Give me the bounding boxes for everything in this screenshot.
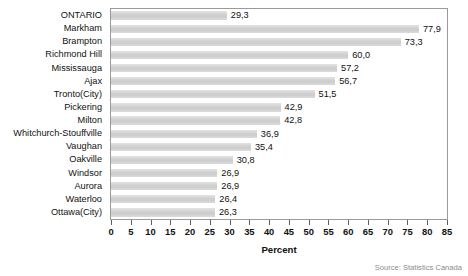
bar-value-label: 29,3 xyxy=(231,11,249,19)
bar-row: 57,2 xyxy=(111,64,447,72)
bar-value-label: 42,8 xyxy=(284,116,302,124)
bar xyxy=(111,143,251,151)
bar-chart: ONTARIOMarkhamBramptonRichmond HillMissi… xyxy=(0,0,468,276)
clipped-caption-sliver xyxy=(130,270,360,276)
bar-value-label: 73,3 xyxy=(405,38,423,46)
bar-row: 26,9 xyxy=(111,169,447,177)
x-axis-tick-mark xyxy=(309,220,310,225)
source-annotation: Source: Statistics Canada xyxy=(375,263,462,272)
bar-row: 26,3 xyxy=(111,208,447,216)
category-label: Brampton xyxy=(62,35,102,47)
bar-value-label: 26,3 xyxy=(219,208,237,216)
x-axis-tick-mark xyxy=(249,220,250,225)
bar xyxy=(111,64,337,72)
bar-value-label: 26,4 xyxy=(219,195,237,203)
category-label: Milton xyxy=(77,114,102,126)
x-axis-tick-mark xyxy=(368,220,369,225)
x-axis-tick-mark xyxy=(131,220,132,225)
bar-value-label: 51,5 xyxy=(319,90,337,98)
bar xyxy=(111,103,281,111)
bar-value-label: 35,4 xyxy=(255,143,273,151)
bar-value-label: 36,9 xyxy=(261,130,279,138)
x-axis-tick-mark xyxy=(407,220,408,225)
x-axis-tick-mark xyxy=(170,220,171,225)
bar-row: 26,4 xyxy=(111,195,447,203)
bar xyxy=(111,116,280,124)
bar-row: 60,0 xyxy=(111,51,447,59)
bar-row: 26,9 xyxy=(111,182,447,190)
bar-row: 42,8 xyxy=(111,116,447,124)
bar-row: 35,4 xyxy=(111,143,447,151)
bar xyxy=(111,11,227,19)
bar xyxy=(111,169,217,177)
category-label: Markham xyxy=(64,22,102,34)
category-label: Windsor xyxy=(68,167,102,179)
bar-row: 51,5 xyxy=(111,90,447,98)
bar-row: 56,7 xyxy=(111,77,447,85)
bar-value-label: 30,8 xyxy=(237,156,255,164)
bar-value-label: 26,9 xyxy=(221,182,239,190)
bar xyxy=(111,195,215,203)
bar-row: 29,3 xyxy=(111,11,447,19)
bar-row: 42,9 xyxy=(111,103,447,111)
category-label: ONTARIO xyxy=(61,9,102,21)
bar xyxy=(111,90,315,98)
x-axis-tick-mark xyxy=(289,220,290,225)
bar xyxy=(111,38,401,46)
bar-value-label: 56,7 xyxy=(339,77,357,85)
x-axis-tick-mark xyxy=(269,220,270,225)
category-label: Waterloo xyxy=(66,193,102,205)
bars-layer: 29,377,973,360,057,256,751,542,942,836,9… xyxy=(111,9,447,219)
x-axis-tick-mark xyxy=(348,220,349,225)
category-axis-labels: ONTARIOMarkhamBramptonRichmond HillMissi… xyxy=(0,8,106,220)
x-axis-tick-mark xyxy=(427,220,428,225)
category-label: Oakville xyxy=(69,153,102,165)
bar-row: 73,3 xyxy=(111,38,447,46)
category-label: Whitchurch-Stouffville xyxy=(13,127,102,139)
bar xyxy=(111,25,419,33)
category-label: Pickering xyxy=(64,101,102,113)
category-label: Ajax xyxy=(84,75,102,87)
bar xyxy=(111,77,335,85)
bar-row: 36,9 xyxy=(111,130,447,138)
x-axis-tick-mark xyxy=(190,220,191,225)
x-axis-tick-mark xyxy=(447,220,448,225)
bar-row: 77,9 xyxy=(111,25,447,33)
x-axis-tick-mark xyxy=(388,220,389,225)
x-axis: 0510152025303540455055606570758085 xyxy=(110,220,448,246)
bar xyxy=(111,51,348,59)
x-axis-tick-mark xyxy=(111,220,112,225)
bar-value-label: 77,9 xyxy=(423,25,441,33)
x-axis-tick-mark xyxy=(210,220,211,225)
category-label: Aurora xyxy=(74,180,102,192)
bar xyxy=(111,156,233,164)
bar-value-label: 26,9 xyxy=(221,169,239,177)
category-label: Mississauga xyxy=(51,62,102,74)
bar-value-label: 60,0 xyxy=(352,51,370,59)
x-axis-tick-mark xyxy=(230,220,231,225)
x-axis-title: Percent xyxy=(110,244,448,255)
bar-value-label: 42,9 xyxy=(285,103,303,111)
x-axis-tick-mark xyxy=(328,220,329,225)
x-axis-tick-mark xyxy=(151,220,152,225)
bar-row: 30,8 xyxy=(111,156,447,164)
bar xyxy=(111,182,217,190)
category-label: Tronto(City) xyxy=(54,88,102,100)
bar-value-label: 57,2 xyxy=(341,64,359,72)
bar xyxy=(111,130,257,138)
bar xyxy=(111,208,215,216)
category-label: Richmond Hill xyxy=(45,48,102,60)
category-label: Ottawa(City) xyxy=(51,206,102,218)
x-axis-tick-label: 85 xyxy=(434,226,460,237)
category-label: Vaughan xyxy=(66,140,102,152)
